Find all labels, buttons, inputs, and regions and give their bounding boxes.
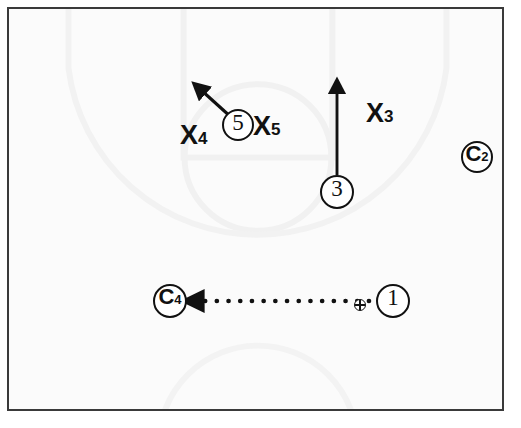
offense-token-3[interactable]: 3 [320,175,354,209]
offense-token-5[interactable]: 5 [222,109,254,141]
defender-token-c4[interactable]: C4 [153,284,187,318]
free-throw-circle [185,84,332,231]
center-circle [159,346,357,409]
court-frame [7,7,504,411]
defender-label-x4[interactable]: X4 [180,122,207,149]
court-surface-rect [9,9,502,409]
defender-token-c2-label: C [465,143,481,165]
defender-token-c4-subscript: 4 [174,293,181,306]
offense-token-1-label: 1 [387,286,399,309]
defender-token-c2-subscript: 2 [481,150,488,163]
offense-token-5-label: 5 [232,111,244,134]
defender-label-x5-letter: X [253,111,271,141]
defender-token-c4-label: C [158,286,174,308]
court-markings [9,9,502,409]
defender-label-x3-letter: X [366,98,384,128]
defender-label-x3[interactable]: X3 [366,100,393,127]
defender-label-x4-letter: X [180,120,198,150]
offense-token-1[interactable]: 1 [376,284,410,318]
defender-token-c2[interactable]: C2 [461,141,493,173]
defender-label-x5-subscript: 5 [271,120,280,139]
defender-label-x5[interactable]: X5 [253,113,280,140]
defender-label-x3-subscript: 3 [384,107,393,126]
basketball-icon [354,299,366,311]
offense-token-3-label: 3 [331,177,343,200]
defender-label-x4-subscript: 4 [198,129,207,148]
play-diagram-stage: 1 3 5 C2 C4 X3 X4 X5 [0,0,521,428]
